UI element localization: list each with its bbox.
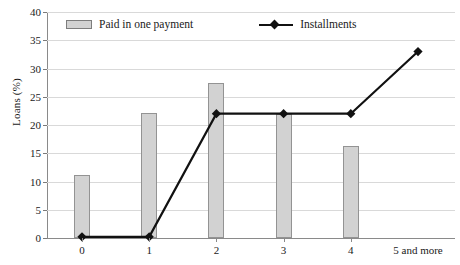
y-tick-mark-30 <box>43 69 47 70</box>
x-tick-mark-4 <box>351 238 352 242</box>
x-tick-label-1: 1 <box>146 244 152 256</box>
x-tick-label-5-and-more: 5 and more <box>393 244 442 256</box>
gridline-20 <box>47 125 455 126</box>
y-axis-title: Loans (%) <box>10 52 22 152</box>
y-tick-mark-35 <box>43 40 47 41</box>
y-tick-mark-0 <box>43 238 47 239</box>
chart-container: Loans (%) 0510152025303540 012345 and mo… <box>0 0 460 265</box>
y-tick-label-5: 5 <box>36 204 42 216</box>
data-point-5-and-more <box>413 47 422 56</box>
gridline-40 <box>47 12 455 13</box>
y-tick-label-25: 25 <box>30 91 41 103</box>
x-tick-label-0: 0 <box>79 244 85 256</box>
x-tick-mark-3 <box>284 238 285 242</box>
bar-4 <box>343 146 359 238</box>
bar-0 <box>74 175 90 238</box>
y-tick-label-30: 30 <box>30 63 41 75</box>
gridline-0 <box>47 238 455 239</box>
y-tick-label-35: 35 <box>30 34 41 46</box>
bar-3 <box>276 114 292 238</box>
legend: Paid in one payment Installments <box>66 18 356 30</box>
gridline-5 <box>47 210 455 211</box>
y-tick-mark-15 <box>43 153 47 154</box>
y-tick-label-15: 15 <box>30 147 41 159</box>
legend-label-bar: Paid in one payment <box>99 18 193 30</box>
x-tick-mark-1 <box>149 238 150 242</box>
data-point-4 <box>346 109 355 118</box>
x-tick-label-3: 3 <box>281 244 287 256</box>
y-tick-label-40: 40 <box>30 6 41 18</box>
x-tick-mark-0 <box>82 238 83 242</box>
y-tick-label-10: 10 <box>30 176 41 188</box>
x-tick-label-4: 4 <box>348 244 354 256</box>
legend-label-line: Installments <box>300 18 356 30</box>
plot-area: 0510152025303540 012345 and more <box>47 12 455 238</box>
gridline-15 <box>47 153 455 154</box>
y-tick-mark-40 <box>43 12 47 13</box>
y-tick-mark-10 <box>43 182 47 183</box>
y-tick-mark-25 <box>43 97 47 98</box>
gridline-30 <box>47 69 455 70</box>
x-tick-mark-2 <box>216 238 217 242</box>
x-tick-label-2: 2 <box>214 244 220 256</box>
y-tick-mark-20 <box>43 125 47 126</box>
y-tick-mark-5 <box>43 210 47 211</box>
gridline-35 <box>47 40 455 41</box>
bar-swatch-icon <box>66 20 92 29</box>
gridline-25 <box>47 97 455 98</box>
y-tick-label-20: 20 <box>30 119 41 131</box>
diamond-marker-icon <box>270 19 280 29</box>
line-swatch-icon <box>259 19 293 29</box>
gridline-10 <box>47 182 455 183</box>
bar-2 <box>208 83 224 238</box>
y-tick-label-0: 0 <box>36 232 42 244</box>
bar-1 <box>141 113 157 238</box>
legend-item-paid-in-one-payment: Paid in one payment <box>66 18 193 30</box>
legend-item-installments: Installments <box>259 18 356 30</box>
